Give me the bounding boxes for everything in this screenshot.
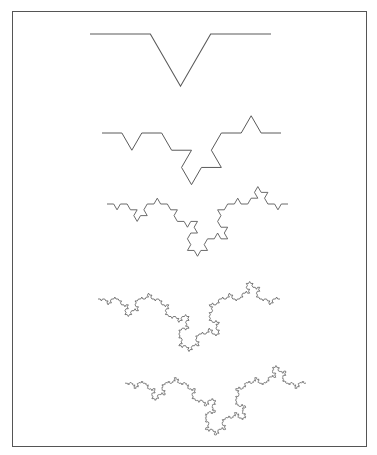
fractal-generation-1 bbox=[90, 34, 271, 86]
fractal-generation-2 bbox=[102, 116, 281, 185]
fractal-generation-4 bbox=[98, 281, 280, 351]
fractal-generation-3 bbox=[107, 187, 288, 257]
fractal-canvas bbox=[0, 0, 377, 455]
fractal-generation-5 bbox=[125, 366, 306, 436]
